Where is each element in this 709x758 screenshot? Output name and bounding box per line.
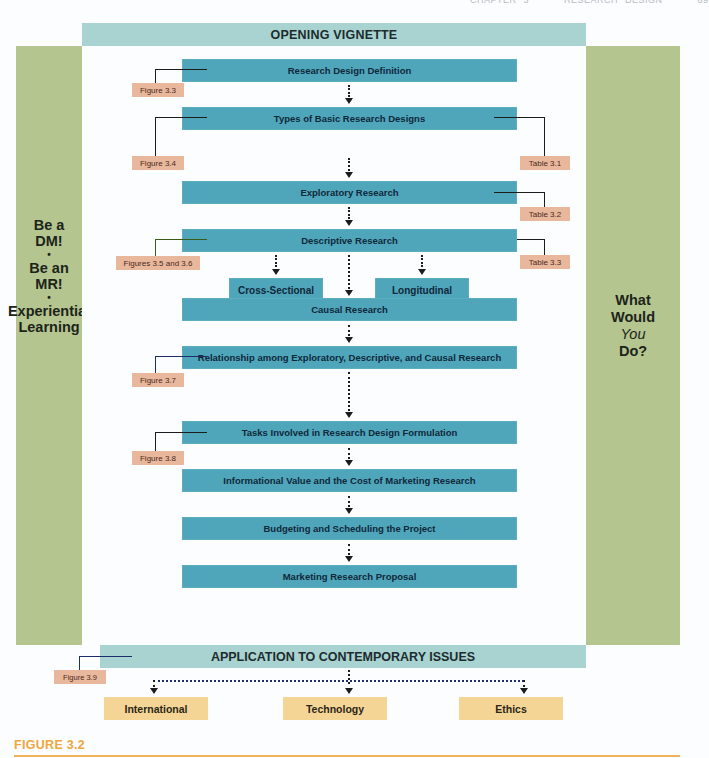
reference-connector bbox=[155, 117, 207, 158]
flow-connector bbox=[348, 85, 350, 97]
reference-figure-3-8[interactable]: Figure 3.8 bbox=[132, 451, 184, 465]
figure-caption: FIGURE 3.2 bbox=[14, 738, 85, 752]
arrow-down-icon bbox=[345, 508, 353, 514]
issue-technology: Technology bbox=[283, 697, 387, 720]
flow-connector bbox=[348, 325, 350, 336]
flow-connector bbox=[153, 680, 155, 687]
flow-connector bbox=[348, 372, 350, 411]
reference-connector bbox=[494, 117, 545, 158]
reference-figure-3-4[interactable]: Figure 3.4 bbox=[132, 156, 184, 170]
step-relationship-among-designs: Relationship among Exploratory, Descript… bbox=[182, 346, 517, 369]
arrow-down-icon bbox=[345, 688, 353, 694]
right-col-line: Would bbox=[611, 309, 655, 326]
step-budgeting-scheduling: Budgeting and Scheduling the Project bbox=[182, 517, 517, 540]
arrow-down-icon bbox=[345, 337, 353, 343]
flow-connector bbox=[348, 207, 350, 219]
arrow-down-icon bbox=[345, 460, 353, 466]
left-col-line: Be an bbox=[8, 260, 90, 276]
left-col-line: Experiential bbox=[8, 303, 90, 319]
step-descriptive-research: Descriptive Research bbox=[182, 229, 517, 252]
reference-figure-3-3[interactable]: Figure 3.3 bbox=[132, 83, 184, 97]
right-col-line: What bbox=[611, 292, 655, 309]
step-exploratory-research: Exploratory Research bbox=[182, 181, 517, 204]
flow-connector bbox=[523, 680, 525, 687]
arrow-down-icon bbox=[418, 269, 426, 275]
reference-table-3-1[interactable]: Table 3.1 bbox=[520, 156, 570, 170]
branch-connector bbox=[153, 680, 524, 682]
running-head: CHAPTER 3 RESEARCH DESIGN 69 bbox=[470, 0, 709, 5]
flow-connector bbox=[348, 158, 350, 171]
left-col-line: DM! bbox=[8, 233, 90, 249]
arrow-down-icon bbox=[345, 412, 353, 418]
arrow-down-icon bbox=[520, 688, 528, 694]
step-types-of-basic-designs: Types of Basic Research Designs bbox=[182, 107, 517, 130]
application-banner: APPLICATION TO CONTEMPORARY ISSUES bbox=[100, 645, 586, 668]
step-research-design-definition: Research Design Definition bbox=[182, 59, 517, 82]
left-col-line: Be a bbox=[8, 217, 90, 233]
left-side-column: Be a DM! • Be an MR! • Experiential Lear… bbox=[16, 46, 82, 645]
opening-vignette-banner: OPENING VIGNETTE bbox=[82, 23, 586, 46]
right-col-line: Do? bbox=[611, 343, 655, 360]
bullet-icon: • bbox=[8, 249, 90, 260]
flow-connector bbox=[275, 255, 277, 267]
arrow-down-icon bbox=[345, 172, 353, 178]
flow-connector bbox=[348, 544, 350, 555]
reference-table-3-2[interactable]: Table 3.2 bbox=[520, 207, 570, 221]
step-informational-value: Informational Value and the Cost of Mark… bbox=[182, 469, 517, 492]
reference-figure-3-9[interactable]: Figure 3.9 bbox=[54, 670, 106, 684]
flow-connector bbox=[421, 255, 423, 267]
left-col-line: Learning bbox=[8, 319, 90, 335]
right-col-italic-word: You bbox=[621, 326, 646, 342]
reference-table-3-3[interactable]: Table 3.3 bbox=[520, 255, 570, 269]
reference-connector bbox=[155, 432, 207, 451]
step-causal-research: Causal Research bbox=[182, 298, 517, 321]
issue-ethics: Ethics bbox=[459, 697, 563, 720]
issue-international: International bbox=[104, 697, 208, 720]
arrow-down-icon bbox=[345, 556, 353, 562]
step-research-proposal: Marketing Research Proposal bbox=[182, 565, 517, 588]
flow-connector bbox=[348, 496, 350, 507]
left-col-line: MR! bbox=[8, 276, 90, 292]
step-tasks-in-formulation: Tasks Involved in Research Design Formul… bbox=[182, 421, 517, 444]
arrow-down-icon bbox=[345, 98, 353, 104]
arrow-down-icon bbox=[150, 688, 158, 694]
flow-connector bbox=[348, 448, 350, 459]
arrow-down-icon bbox=[272, 269, 280, 275]
arrow-down-icon bbox=[345, 290, 353, 296]
right-side-column: What Would You Do? bbox=[586, 46, 680, 645]
flow-connector bbox=[348, 255, 350, 289]
bullet-icon: • bbox=[8, 292, 90, 303]
arrow-down-icon bbox=[345, 220, 353, 226]
reference-figures-3-5-and-3-6[interactable]: Figures 3.5 and 3.6 bbox=[116, 256, 200, 270]
caption-rule bbox=[14, 755, 680, 757]
reference-figure-3-7[interactable]: Figure 3.7 bbox=[132, 373, 184, 387]
